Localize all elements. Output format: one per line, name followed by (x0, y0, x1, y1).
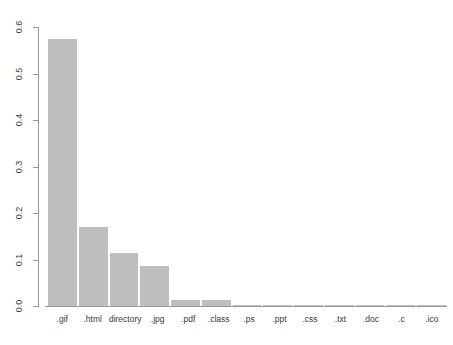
bar (263, 305, 292, 306)
bar (417, 305, 446, 306)
bar (171, 300, 200, 306)
y-axis-tick-label: 0.1 (8, 254, 30, 266)
x-axis-tick-label: .txt (326, 312, 354, 332)
y-axis-line (38, 27, 39, 307)
x-axis-tick-label: directory (109, 312, 142, 332)
y-axis-tick (33, 74, 38, 75)
bar (356, 305, 385, 306)
x-axis-tick-label: .css (296, 312, 324, 332)
y-axis-tick (33, 260, 38, 261)
bar (294, 305, 323, 306)
bar-slot (386, 20, 415, 306)
y-axis-tick-label: 0.6 (8, 21, 30, 33)
x-axis-tick-label: .ico (418, 312, 446, 332)
y-axis-tick-label-text: 0.2 (14, 207, 24, 220)
bar-slot (325, 20, 354, 306)
y-axis-tick-label-text: 0.1 (14, 253, 24, 266)
plot-area (48, 20, 446, 306)
bar-slot (110, 20, 139, 306)
bar-chart: 0.60.50.40.30.20.10.0 .gif.htmldirectory… (0, 0, 453, 345)
x-axis-tick-label: .class (204, 312, 232, 332)
bar-slot (417, 20, 446, 306)
x-axis-tick-label: .doc (357, 312, 385, 332)
bar-slot (202, 20, 231, 306)
y-axis-tick-label: 0.4 (8, 114, 30, 126)
y-axis-tick-label-text: 0.4 (14, 114, 24, 127)
y-axis-tick-label-text: 0.0 (14, 300, 24, 313)
bar (325, 305, 354, 306)
y-axis-tick (33, 213, 38, 214)
bar-slot (171, 20, 200, 306)
x-axis-tick-label: .ps (235, 312, 263, 332)
y-axis-tick-label-text: 0.3 (14, 160, 24, 173)
bar (202, 300, 231, 306)
bar-slot (233, 20, 262, 306)
y-axis-tick-label: 0.5 (8, 68, 30, 80)
bar-slot (356, 20, 385, 306)
bar (386, 305, 415, 306)
bar-slot (79, 20, 108, 306)
bar (233, 305, 262, 306)
y-axis-tick-label-text: 0.6 (14, 21, 24, 34)
x-axis-tick-label: .html (78, 312, 106, 332)
bar (110, 253, 139, 306)
y-axis-tick (33, 306, 38, 307)
x-axis-line (45, 306, 447, 307)
y-axis-tick (33, 27, 38, 28)
bar-slot (263, 20, 292, 306)
x-axis-tick-label: .jpg (144, 312, 172, 332)
bar-slot (140, 20, 169, 306)
y-axis-tick (33, 167, 38, 168)
x-axis-tick-label: .gif (48, 312, 76, 332)
x-axis-tick-label: .c (387, 312, 415, 332)
bar (48, 39, 77, 306)
x-axis-tick-label: .pdf (174, 312, 202, 332)
y-axis-tick-label: 0.3 (8, 161, 30, 173)
bar (79, 227, 108, 306)
x-axis-tick-label: .ppt (265, 312, 293, 332)
bar-series (48, 20, 446, 306)
y-axis-tick-label-text: 0.5 (14, 67, 24, 80)
y-axis-tick (33, 120, 38, 121)
bar (140, 266, 169, 306)
x-axis-tick-labels: .gif.htmldirectory.jpg.pdf.class.ps.ppt.… (48, 312, 446, 332)
y-axis-tick-label: 0.0 (8, 300, 30, 312)
bar-slot (294, 20, 323, 306)
bar-slot (48, 20, 77, 306)
y-axis-tick-label: 0.2 (8, 207, 30, 219)
